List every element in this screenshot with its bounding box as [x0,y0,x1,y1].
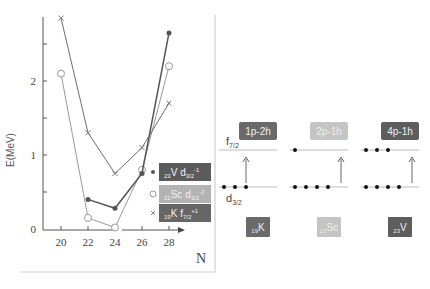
particle-dot [326,185,330,189]
particle-dot [364,185,368,189]
config-label: 4p-1h [387,126,413,137]
legend-item: 21Sc d3/2-2 [150,185,211,203]
series-line [61,66,169,227]
series-21sc-d3-2-2 [58,63,173,231]
series-line [61,18,169,173]
particle-dot [315,185,319,189]
data-point-cross [140,145,145,150]
particle-dot [375,148,379,152]
data-point-open-circle [58,70,65,77]
data-point-open-circle [85,214,92,221]
y-tick-label: 0 [31,223,37,235]
energy-chart: 012 2022242628 E(MeV) N 23V d3/2-121Sc d… [5,16,211,266]
y-tick-label: 2 [31,75,37,87]
series-line [88,33,169,208]
particle-dot [386,185,390,189]
particle-dot [222,185,226,189]
particle-dot [233,185,237,189]
data-point-cross [113,171,118,176]
config-column-sc: 2p-1h21Sc [290,122,348,237]
x-axis-label: N [196,251,206,266]
y-axis-label: E(MeV) [5,133,16,167]
particle-dot [293,185,297,189]
data-point-filled-circle [140,171,145,176]
level-diagram: f7/2d3/21p-2h19K2p-1h21Sc4p-1h23V [219,122,419,237]
x-tick-label: 20 [56,236,68,248]
filled-circle-icon [151,170,155,174]
particle-dot [397,185,401,189]
particle-dot [244,185,248,189]
config-label: 2p-1h [316,126,342,137]
y-ticks: 012 [31,44,48,235]
config-column-v: 4p-1h23V [361,122,419,237]
legend-item: 19K f7/2+1 [151,204,211,222]
data-point-cross [167,101,172,106]
figure: 012 2022242628 E(MeV) N 23V d3/2-121Sc d… [0,0,430,289]
cross-icon [151,211,155,215]
legend: 23V d3/2-121Sc d3/2-219K f7/2+1 [150,163,211,222]
y-tick-label: 1 [31,149,37,161]
data-point-filled-circle [113,206,118,211]
particle-dot [386,148,390,152]
data-point-open-circle [166,63,173,70]
particle-dot [375,185,379,189]
x-tick-label: 26 [137,236,149,248]
config-label: 1p-2h [245,126,271,137]
data-point-open-circle [112,224,119,231]
legend-label: 21Sc d3/2-2 [164,189,205,201]
x-axis-arrow-icon [178,227,185,233]
upper-level-label: f7/2 [226,135,239,149]
x-tick-label: 22 [83,236,94,248]
particle-dot [293,148,297,152]
data-series [58,16,173,231]
lower-level-label: d3/2 [226,192,242,206]
legend-item: 23V d3/2-1 [151,163,211,181]
data-point-filled-circle [167,30,172,35]
open-circle-icon [150,191,156,197]
x-tick-label: 24 [110,236,122,248]
particle-dot [304,185,308,189]
data-point-filled-circle [86,197,91,202]
particle-dot [364,148,368,152]
x-tick-label: 28 [164,236,176,248]
